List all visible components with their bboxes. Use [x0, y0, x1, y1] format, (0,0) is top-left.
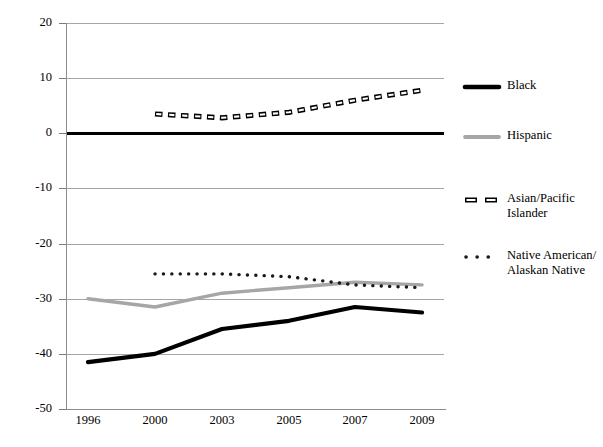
- dashed-line-icon: [462, 193, 502, 207]
- y-axis-tick: [59, 78, 66, 79]
- x-axis-tick-label: 2003: [192, 413, 252, 428]
- x-axis-tick-label: 2007: [325, 413, 385, 428]
- gridline: [66, 244, 444, 245]
- y-axis-tick-label: 10: [0, 71, 52, 83]
- gridline: [66, 23, 444, 24]
- series-layer: [0, 0, 603, 447]
- y-axis-tick: [59, 244, 66, 245]
- series-line-2: [155, 90, 422, 118]
- gridline: [66, 78, 444, 79]
- x-axis-tick-label: 2005: [259, 413, 319, 428]
- chart-container: 20100-10-20-30-40-50 1996200020032005200…: [0, 0, 603, 447]
- y-axis-tick: [59, 23, 66, 24]
- y-axis-tick: [59, 299, 66, 300]
- series-line-fill-2: [155, 90, 422, 118]
- y-axis-tick: [59, 409, 66, 410]
- x-axis-tick-label: 2009: [392, 413, 452, 428]
- y-axis-tick-label: -30: [0, 292, 52, 304]
- legend-label-3: Native American/ Alaskan Native: [507, 248, 603, 277]
- y-axis-tick: [59, 354, 66, 355]
- y-axis-tick-label: -10: [0, 181, 52, 193]
- x-axis-tick-label: 1996: [58, 413, 118, 428]
- legend-label-1: Hispanic: [507, 128, 603, 143]
- series-line-3: [155, 274, 422, 288]
- y-axis-tick-label: -50: [0, 402, 52, 414]
- series-line-1: [88, 282, 422, 307]
- legend-label-0: Black: [507, 78, 603, 93]
- gridline: [66, 299, 444, 300]
- y-axis-tick-label: -20: [0, 237, 52, 249]
- x-axis-tick-label: 2000: [125, 413, 185, 428]
- y-axis-tick: [59, 188, 66, 189]
- y-axis-tick-label: 0: [0, 126, 52, 138]
- dotted-line-icon: [462, 250, 502, 264]
- zero-reference-line: [66, 132, 444, 135]
- y-axis-tick-label: 20: [0, 16, 52, 28]
- thick-solid-line-icon: [462, 80, 502, 94]
- y-axis-tick: [59, 133, 66, 134]
- y-axis-line: [66, 23, 67, 409]
- x-axis-line: [66, 409, 446, 410]
- y-axis-tick-label: -40: [0, 347, 52, 359]
- gridline: [66, 188, 444, 189]
- gridline: [66, 354, 444, 355]
- thick-gray-line-icon: [462, 130, 502, 144]
- legend-label-2: Asian/Pacific Islander: [507, 191, 603, 220]
